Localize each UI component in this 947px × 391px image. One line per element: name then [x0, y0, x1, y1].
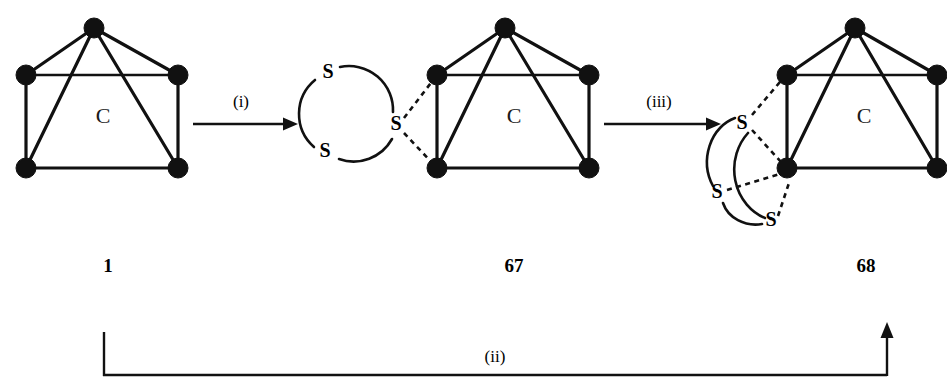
arc-s1-s3-68 — [734, 133, 765, 218]
compound-label-68: 68 — [857, 255, 876, 276]
arrow-i-head — [283, 118, 298, 131]
dashed-bond-s1-to-lower-left-68 — [752, 130, 782, 163]
sulfur-atom-bottom-68: S — [765, 208, 776, 230]
structure-68-group: S S S C — [707, 18, 947, 230]
carbide-label-68: C — [857, 103, 872, 128]
arrow-ii-label: (ii) — [485, 347, 506, 366]
arrow-iii-group: (iii) — [604, 92, 721, 131]
sulfur-atom-upper-68: S — [736, 111, 747, 133]
metal-vertex-upper-left-68 — [777, 65, 797, 85]
sulfur-atom-bottom-67: S — [319, 139, 330, 161]
reaction-scheme-diagram: C (i) S S S — [0, 0, 947, 391]
metal-vertex-lower-right-67 — [579, 158, 599, 178]
sulfur-atom-top-67: S — [322, 60, 333, 82]
dashed-bond-s1-to-upper-left-68 — [752, 82, 780, 115]
arrow-iii-label: (iii) — [646, 92, 672, 111]
arrow-i-group: (i) — [193, 92, 298, 131]
compound-label-67: 67 — [505, 255, 525, 276]
sulfur-atom-left-68: S — [711, 180, 722, 202]
dashed-bond-s3-to-lower-left-68 — [778, 180, 790, 216]
metal-vertex-upper-left-67 — [427, 65, 447, 85]
metal-vertex-apex-67 — [495, 18, 515, 38]
metal-vertex-upper-right-67 — [579, 65, 599, 85]
metal-vertex-apex-68 — [845, 18, 865, 38]
sulfur-arcs-68 — [707, 118, 765, 225]
carbide-label-67: C — [507, 103, 522, 128]
structure-68-edges — [787, 28, 937, 168]
metal-vertex-upper-right-68 — [927, 65, 947, 85]
arrow-ii-head — [881, 322, 894, 338]
structure-1-edges — [26, 28, 178, 168]
sulfur-dashed-bonds-67 — [404, 75, 437, 168]
metal-vertex-lower-right — [168, 158, 188, 178]
sulfur-dashed-bonds-68 — [727, 82, 790, 216]
metal-vertex-upper-right — [168, 65, 188, 85]
structure-1-group: C — [16, 18, 188, 178]
metal-vertex-apex — [84, 18, 104, 38]
sulfur-ring-67: S S S — [299, 60, 402, 162]
metal-vertex-lower-right-68 — [927, 158, 947, 178]
structure-67-edges — [437, 28, 589, 168]
metal-vertex-upper-left — [16, 65, 36, 85]
arrow-i-label: (i) — [233, 92, 249, 111]
metal-vertex-lower-left — [16, 158, 36, 178]
compound-label-1: 1 — [103, 255, 113, 276]
sulfur-atom-bridging-67: S — [390, 112, 401, 134]
metal-vertex-lower-left-67 — [427, 158, 447, 178]
structure-67-group: S S S C — [299, 18, 599, 178]
arrow-ii-group: (ii) — [103, 322, 894, 376]
metal-vertex-lower-left-68 — [777, 158, 797, 178]
carbide-label-1: C — [96, 103, 111, 128]
